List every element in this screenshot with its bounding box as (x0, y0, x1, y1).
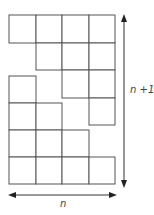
arrow-head-left-icon (8, 192, 16, 198)
width-label: n (60, 198, 66, 209)
lower-square-cell (9, 157, 36, 184)
upper-square-cell (89, 43, 115, 70)
lower-square-cell (62, 130, 89, 157)
lower-square-cell (36, 157, 62, 184)
upper-square-cell (9, 15, 36, 43)
lower-square-cell (9, 103, 36, 130)
arrow-head-up-icon (121, 14, 127, 22)
lower-square-cell (62, 157, 89, 184)
upper-square-cell (62, 43, 89, 70)
height-arrow (121, 14, 127, 188)
upper-square-cell (89, 15, 115, 43)
staircase-diagram (0, 0, 154, 215)
lower-square-cell (36, 130, 62, 157)
lower-square-cell (9, 130, 36, 157)
height-label: n +1 (130, 84, 154, 95)
lower-square-cell (36, 103, 62, 130)
lower-square-cell (9, 76, 36, 103)
lower-square-cell (89, 157, 115, 184)
upper-square-cell (62, 15, 89, 43)
upper-square-cell (36, 43, 62, 70)
upper-square-cell (89, 98, 115, 125)
arrow-head-right-icon (109, 192, 117, 198)
upper-square-cell (36, 15, 62, 43)
arrow-head-down-icon (121, 180, 127, 188)
upper-square-cell (62, 70, 89, 98)
upper-square-cell (89, 70, 115, 98)
